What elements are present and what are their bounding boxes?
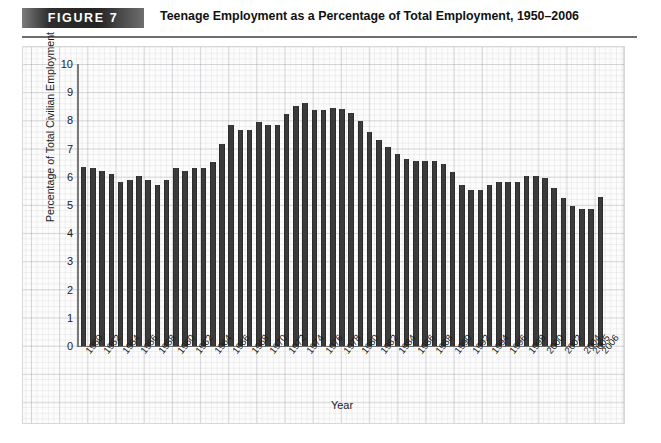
bar-1958 (155, 185, 161, 346)
bar-series (79, 64, 605, 346)
y-axis-tick-10: 10 (47, 58, 73, 70)
bar-1983 (385, 147, 391, 346)
y-axis-tick-labels: 109876543210 (47, 47, 73, 425)
bar-1953 (109, 174, 115, 346)
bar-1954 (118, 182, 124, 346)
bar-2002 (561, 198, 567, 346)
bar-1963 (201, 168, 207, 347)
bar-1959 (164, 180, 170, 346)
bar-1966 (228, 125, 234, 346)
bar-1972 (284, 114, 290, 346)
source-note: SOURCE: Economic Report of the President… (627, 439, 659, 443)
bar-2004 (579, 209, 585, 346)
bar-1970 (265, 125, 271, 346)
y-axis-tick-8: 8 (47, 114, 73, 126)
bar-1957 (145, 180, 151, 346)
figure-header: FIGURE 7 Teenage Employment as a Percent… (22, 8, 622, 30)
bar-2000 (542, 178, 548, 346)
bar-1962 (192, 168, 198, 346)
bar-1987 (422, 161, 428, 346)
bar-1981 (367, 132, 373, 346)
y-axis-tick-2: 2 (47, 284, 73, 296)
bar-1951 (90, 168, 96, 347)
bar-2005 (588, 209, 594, 346)
bar-1984 (395, 154, 401, 346)
bar-1996 (505, 182, 511, 346)
header-divider (22, 36, 637, 38)
y-axis-tick-4: 4 (47, 227, 73, 239)
bar-1992 (468, 190, 474, 347)
bar-1995 (496, 182, 502, 346)
y-axis-tick-6: 6 (47, 171, 73, 183)
bar-1976 (321, 110, 327, 346)
bar-2001 (551, 188, 557, 346)
bar-1965 (219, 144, 225, 346)
bar-1994 (487, 185, 493, 346)
bar-2006 (598, 197, 604, 346)
x-axis-title: Year (79, 399, 605, 411)
bar-1969 (256, 122, 262, 346)
bar-1993 (478, 190, 484, 346)
bar-2003 (570, 206, 576, 346)
bar-1956 (136, 176, 142, 346)
bar-1960 (173, 168, 179, 346)
bar-1999 (533, 176, 539, 346)
chart-plot-frame: Percentage of Total Civilian Employment … (22, 46, 625, 424)
bar-1997 (515, 182, 521, 346)
bar-1952 (99, 171, 105, 346)
y-axis-tick-1: 1 (47, 312, 73, 324)
bar-1978 (339, 109, 345, 346)
bar-1967 (238, 130, 244, 346)
bar-1964 (210, 162, 216, 346)
bar-1961 (182, 171, 188, 346)
x-axis-tick-labels: 1950195219541956195819601962196419661968… (79, 349, 605, 401)
bar-1989 (441, 164, 447, 346)
y-axis-tick-3: 3 (47, 255, 73, 267)
bar-1985 (404, 159, 410, 346)
bar-1980 (358, 121, 364, 346)
bar-1950 (81, 167, 87, 346)
bar-1974 (302, 103, 308, 346)
bar-1975 (312, 110, 318, 346)
bar-1988 (432, 161, 438, 346)
bar-1990 (450, 172, 456, 346)
y-axis-tick-5: 5 (47, 199, 73, 211)
bar-1979 (348, 113, 354, 346)
figure-number-badge: FIGURE 7 (22, 8, 144, 28)
y-axis-tick-7: 7 (47, 143, 73, 155)
bar-1986 (413, 161, 419, 346)
bar-1973 (293, 106, 299, 346)
bar-1977 (330, 108, 336, 346)
figure-title: Teenage Employment as a Percentage of To… (160, 9, 579, 23)
bar-1968 (247, 130, 253, 346)
bar-1998 (524, 176, 530, 346)
bar-1971 (275, 125, 281, 346)
bar-1955 (127, 180, 133, 346)
y-axis-tick-9: 9 (47, 86, 73, 98)
y-axis-tick-0: 0 (47, 340, 73, 352)
bar-1982 (376, 140, 382, 346)
bar-1991 (459, 185, 465, 346)
